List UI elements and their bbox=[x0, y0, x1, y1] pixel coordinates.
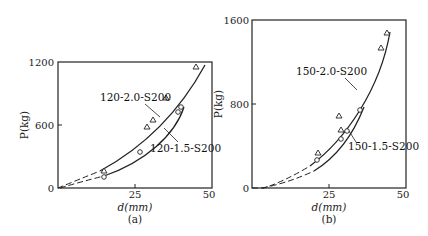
series-label-120-1.5: 120-1.5-S200 bbox=[150, 142, 221, 154]
panel-caption: (a) bbox=[128, 213, 142, 225]
series-label-150-2.0: 150-2.0-S200 bbox=[296, 65, 367, 77]
series-label-120-2.0: 120-2.0-S200 bbox=[100, 91, 171, 103]
xtick-label: 50 bbox=[203, 189, 216, 200]
x-axis-label: d(mm) bbox=[312, 201, 347, 213]
ytick-label: 800 bbox=[230, 99, 249, 110]
plot-frame-a bbox=[58, 62, 212, 188]
ytick-label: 1600 bbox=[224, 15, 249, 26]
series-label-150-1.5: 150-1.5-S200 bbox=[348, 140, 419, 152]
ytick-label: 0 bbox=[48, 183, 54, 194]
curve-dashed bbox=[58, 171, 100, 188]
xtick-label: 50 bbox=[397, 189, 410, 200]
triangle-markers bbox=[101, 64, 199, 173]
ytick-label: 600 bbox=[35, 120, 54, 131]
panel-b: 1600 800 0 25 50 d(mm) (b) P(kg) 150-2.0… bbox=[212, 15, 419, 225]
ytick-label: 1200 bbox=[29, 57, 54, 68]
leader-line bbox=[145, 104, 160, 117]
panel-caption: (b) bbox=[322, 213, 337, 225]
xtick-label: 25 bbox=[323, 189, 336, 200]
y-axis-label: P(kg) bbox=[212, 90, 224, 118]
xtick-label: 25 bbox=[129, 189, 142, 200]
curve-dashed bbox=[60, 176, 104, 188]
y-axis-label: P(kg) bbox=[18, 111, 30, 139]
leader-line bbox=[345, 78, 357, 90]
curve-dashed bbox=[252, 166, 310, 188]
figure: 1200 600 0 25 50 d(mm) (a) P(kg) bbox=[0, 0, 428, 236]
panel-a: 1200 600 0 25 50 d(mm) (a) P(kg) bbox=[18, 57, 221, 225]
x-axis-label: d(mm) bbox=[118, 201, 153, 213]
ytick-label: 0 bbox=[243, 183, 249, 194]
plot-frame-b bbox=[252, 20, 406, 188]
